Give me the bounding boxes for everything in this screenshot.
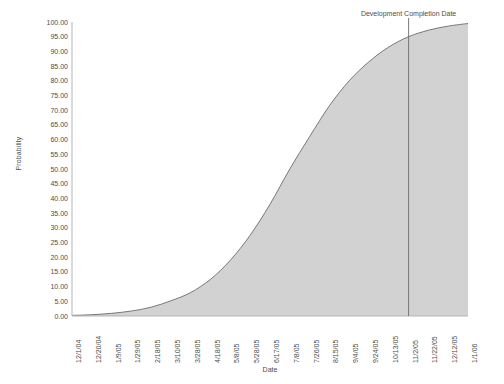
- x-tick-label: 4/18/05: [214, 340, 221, 363]
- x-tick-label: 5/8/05: [233, 344, 240, 363]
- x-axis-tick-labels: 12/1/0412/20/041/9/051/29/052/18/053/10/…: [0, 0, 504, 384]
- x-tick-label: 1/1/06: [471, 344, 478, 363]
- x-tick-label: 11/22/05: [431, 336, 438, 363]
- x-tick-label: 3/28/05: [194, 340, 201, 363]
- x-tick-label: 9/4/05: [352, 344, 359, 363]
- x-tick-label: 12/1/04: [75, 340, 82, 363]
- x-tick-label: 6/17/05: [273, 340, 280, 363]
- x-tick-label: 9/24/05: [372, 340, 379, 363]
- x-tick-label: 1/29/05: [134, 340, 141, 363]
- x-tick-label: 12/12/05: [451, 336, 458, 363]
- annotation-label: Development Completion Date: [309, 10, 504, 18]
- x-axis-title: Date: [72, 366, 468, 373]
- x-tick-label: 10/13/05: [392, 336, 399, 363]
- x-tick-label: 5/28/05: [253, 340, 260, 363]
- x-tick-label: 8/15/05: [332, 340, 339, 363]
- x-tick-label: 3/10/05: [174, 340, 181, 363]
- x-tick-label: 2/18/05: [154, 340, 161, 363]
- x-tick-label: 7/8/05: [293, 344, 300, 363]
- x-tick-label: 1/9/05: [115, 344, 122, 363]
- probability-s-curve-chart: Probability 0.005.0010.0015.0020.0025.00…: [0, 0, 504, 384]
- x-tick-label: 11/2/05: [412, 340, 419, 363]
- x-tick-label: 12/20/04: [95, 336, 102, 363]
- x-tick-label: 7/26/05: [313, 340, 320, 363]
